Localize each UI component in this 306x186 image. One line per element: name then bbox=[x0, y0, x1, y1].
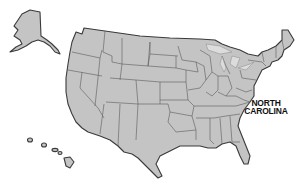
us-map bbox=[0, 0, 306, 186]
label-line-2: CAROLINA bbox=[241, 107, 291, 115]
hawaii-inset bbox=[28, 138, 75, 168]
alaska-inset bbox=[10, 10, 60, 54]
north-carolina-label: NORTH CAROLINA bbox=[241, 99, 291, 115]
